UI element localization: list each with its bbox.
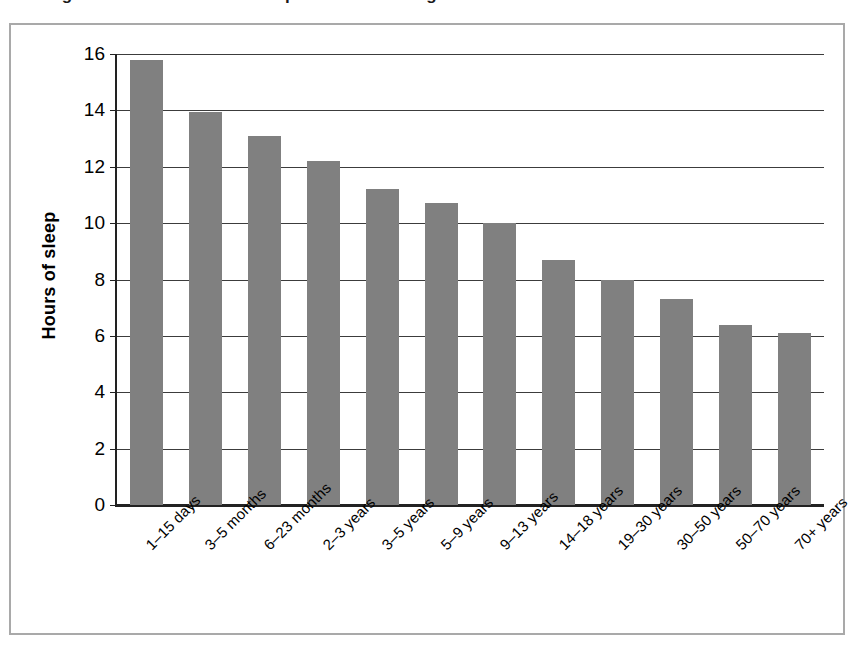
y-tick-mark-6 <box>110 336 117 337</box>
y-tick-label-2: 2 <box>65 438 105 460</box>
y-tick-label-14: 14 <box>65 99 105 121</box>
sleep-hours-bar-chart-figure: Average number of hours of sleep we need… <box>0 0 853 646</box>
y-tick-mark-0 <box>110 505 117 506</box>
y-axis-title: Hours of sleep <box>39 176 60 376</box>
gridline-14 <box>117 110 824 111</box>
y-tick-mark-8 <box>110 280 117 281</box>
gridline-10 <box>117 223 824 224</box>
bar <box>425 203 458 505</box>
y-tick-mark-2 <box>110 449 117 450</box>
y-tick-label-6: 6 <box>65 325 105 347</box>
bar <box>366 189 399 505</box>
y-tick-mark-14 <box>110 110 117 111</box>
y-tick-label-10: 10 <box>65 212 105 234</box>
bar <box>189 112 222 505</box>
bar <box>307 161 340 505</box>
y-tick-label-4: 4 <box>65 381 105 403</box>
bar <box>483 223 516 505</box>
chart-title-strip: Average number of hours of sleep we need… <box>0 0 853 10</box>
gridline-16 <box>117 54 824 55</box>
bar <box>660 299 693 505</box>
y-tick-label-12: 12 <box>65 156 105 178</box>
bar <box>778 333 811 505</box>
y-tick-mark-16 <box>110 54 117 55</box>
bar <box>542 260 575 505</box>
y-tick-mark-12 <box>110 167 117 168</box>
gridline-12 <box>117 167 824 168</box>
plot-area: 0246810121416 1–15 days3–5 months6–23 mo… <box>115 54 824 507</box>
bar <box>719 325 752 505</box>
gridline-4 <box>117 392 824 393</box>
y-tick-label-16: 16 <box>65 43 105 65</box>
bar <box>601 280 634 506</box>
y-tick-label-0: 0 <box>65 494 105 516</box>
bar <box>248 136 281 505</box>
chart-title: Average number of hours of sleep we need… <box>14 0 468 5</box>
chart-frame: Hours of sleep 0246810121416 1–15 days3–… <box>9 23 845 635</box>
gridline-8 <box>117 280 824 281</box>
gridline-2 <box>117 449 824 450</box>
gridline-6 <box>117 336 824 337</box>
y-tick-mark-10 <box>110 223 117 224</box>
bar <box>130 60 163 505</box>
plot-wrapper: Hours of sleep 0246810121416 1–15 days3–… <box>11 25 843 633</box>
y-tick-label-8: 8 <box>65 269 105 291</box>
y-tick-mark-4 <box>110 392 117 393</box>
